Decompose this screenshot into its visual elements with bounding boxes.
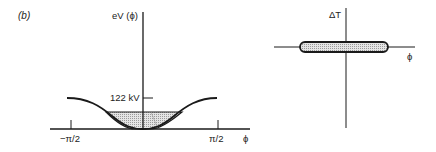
x-axis-label: ϕ	[243, 133, 248, 144]
left-plot: eV (ϕ) 122 kV −π/2 π/2 ϕ	[50, 10, 250, 144]
x-axis-label: ϕ	[407, 51, 412, 62]
level-label: 122 kV	[110, 92, 140, 103]
x-tick-label-neg: −π/2	[60, 133, 80, 144]
x-tick-label-pos: π/2	[209, 133, 223, 144]
phase-space-ellipse	[300, 42, 388, 52]
figure: (b) eV (ϕ) 122 kV −π/2 π/2 ϕ ΔT ϕ	[0, 0, 436, 152]
panel-label: (b)	[18, 10, 30, 21]
y-axis-label: eV (ϕ)	[112, 10, 138, 21]
y-axis-label: ΔT	[329, 9, 341, 20]
right-plot: ΔT ϕ	[274, 8, 415, 128]
